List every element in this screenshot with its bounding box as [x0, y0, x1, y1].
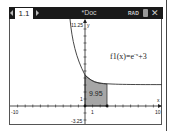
integral-value-label[interactable]: 9.95 [89, 90, 103, 97]
lower-bound-point[interactable] [84, 105, 87, 108]
x-tick-label: 1 [91, 109, 94, 115]
y-tick-label: 1 [80, 96, 83, 102]
y-axis-name: y [87, 22, 90, 28]
x-axis-arrow-icon [158, 104, 162, 108]
x-axis-name: x [157, 97, 160, 103]
ymin-label[interactable]: -3.25 [71, 118, 83, 124]
ymax-label[interactable]: 11.25 [71, 22, 83, 28]
xmin-label[interactable]: -10 [11, 109, 18, 115]
function-label[interactable]: f1(x)=e-x+3 [110, 52, 147, 61]
xmax-label[interactable]: 10 [155, 109, 161, 115]
function-label-tail: +3 [138, 52, 147, 61]
graph-canvas[interactable]: 11.25 y x 1 1 -10 10 -3.25 9.95 f1(x)=e-… [0, 0, 169, 132]
function-label-base: f1(x)=e [110, 52, 135, 61]
upper-bound-point[interactable] [106, 105, 109, 108]
